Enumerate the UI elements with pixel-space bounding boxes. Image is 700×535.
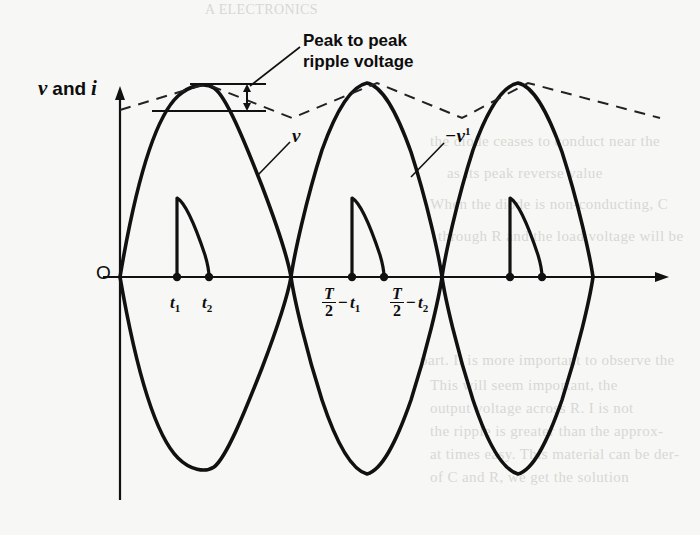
ripple-envelope-dashed bbox=[120, 83, 660, 118]
curve-label-v-prime-base: v bbox=[457, 125, 465, 146]
tick-label-t4: T 2 −t2 bbox=[390, 287, 428, 321]
tick-label-t3-denominator: 2 bbox=[322, 302, 336, 319]
tick-label-t2-sub: 2 bbox=[207, 302, 213, 314]
voltage-waveform-v bbox=[120, 83, 593, 474]
curve-label-v: v bbox=[292, 125, 300, 147]
tick-label-t3-minus: − bbox=[338, 293, 348, 312]
tick-label-t4-denominator: 2 bbox=[390, 302, 404, 319]
leader-v-prime-label bbox=[411, 143, 444, 177]
tick-label-t1: t1 bbox=[170, 293, 180, 314]
y-axis-label: vandi bbox=[38, 76, 97, 101]
curve-label-v-prime-superscript: 1 bbox=[465, 125, 471, 137]
curve-label-v-prime: −v1 bbox=[445, 125, 470, 147]
tick-dot-t2 bbox=[205, 273, 213, 281]
axis-group bbox=[103, 86, 669, 500]
y-axis-label-and: and bbox=[52, 78, 86, 99]
y-axis-arrowhead bbox=[115, 86, 125, 100]
ripple-annotation-line2: ripple voltage bbox=[303, 51, 414, 72]
tick-label-t2: t2 bbox=[202, 293, 212, 314]
tick-label-t3: T 2 −t1 bbox=[322, 287, 360, 321]
ripple-arrow-head-down bbox=[243, 103, 251, 111]
tick-label-t4-numerator: T bbox=[390, 286, 404, 302]
curve-label-v-prime-minus: − bbox=[445, 125, 457, 146]
current-pulses-i bbox=[177, 198, 542, 277]
leader-ripple-annotation bbox=[250, 47, 300, 86]
tick-dot-t1 bbox=[173, 273, 181, 281]
tick-label-t4-minus: − bbox=[406, 293, 416, 312]
tick-label-t4-fraction: T 2 bbox=[390, 286, 404, 320]
ripple-annotation-text: Peak to peak ripple voltage bbox=[303, 30, 414, 73]
tick-label-t3-sub: 1 bbox=[355, 302, 361, 314]
y-axis-label-i: i bbox=[91, 76, 97, 100]
y-axis-label-v: v bbox=[38, 76, 47, 100]
ripple-annotation-line1: Peak to peak bbox=[303, 30, 414, 51]
tick-label-t4-sub: 2 bbox=[423, 302, 429, 314]
tick-dot-t6 bbox=[538, 273, 546, 281]
leader-v-label bbox=[257, 142, 290, 176]
figure-page: A ELECTRONICS the diode ceases to conduc… bbox=[0, 0, 700, 535]
x-axis-arrowhead bbox=[655, 272, 669, 282]
tick-dot-t3 bbox=[348, 273, 356, 281]
tick-label-t1-sub: 1 bbox=[175, 302, 181, 314]
tick-label-t3-fraction: T 2 bbox=[322, 286, 336, 320]
origin-label: O bbox=[96, 262, 111, 284]
tick-dot-t4 bbox=[380, 273, 388, 281]
tick-dot-t5 bbox=[506, 273, 514, 281]
tick-label-t3-numerator: T bbox=[322, 286, 336, 302]
